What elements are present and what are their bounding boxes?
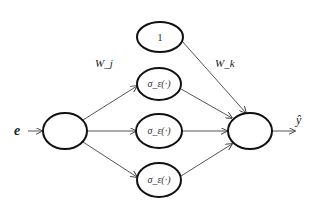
hidden-node-3-label: σ_ε(·): [147, 175, 170, 185]
output-node: [228, 113, 272, 149]
hidden-node-2-label: σ_ε(·): [147, 126, 170, 136]
input-label-e: e: [14, 124, 20, 138]
edges: [28, 41, 295, 177]
edge-bias-to-output: [182, 41, 246, 113]
bias-node-label: 1: [157, 32, 163, 43]
weight-label-wk: W_k: [215, 58, 235, 69]
hidden-node-1-label: σ_ε(·): [147, 79, 170, 89]
weight-label-wj: W_j: [95, 58, 113, 69]
edge-input-to-hidden-1: [83, 86, 137, 120]
nodes: [43, 22, 272, 197]
edge-hidden-3-to-output: [181, 144, 232, 176]
input-node: [43, 113, 87, 149]
edge-hidden-1-to-output: [181, 89, 232, 118]
output-label-yhat: ŷ: [296, 114, 301, 126]
edge-input-to-hidden-3: [83, 142, 137, 177]
